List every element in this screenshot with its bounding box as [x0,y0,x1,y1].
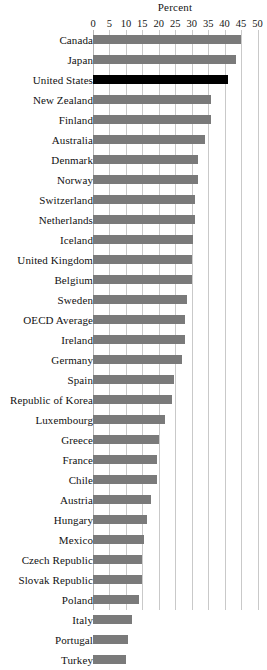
bar [93,395,172,404]
bar [93,255,192,264]
category-label: Italy [72,610,93,630]
chart-row: United States [0,70,267,90]
bar [93,195,195,204]
chart-row: Republic of Korea [0,390,267,410]
category-label: Turkey [61,650,93,670]
bar [93,555,142,564]
category-label: Sweden [58,290,93,310]
chart-row: Denmark [0,150,267,170]
category-label: Chile [69,470,93,490]
chart-row: Mexico [0,530,267,550]
bar [93,275,192,284]
bar [93,635,128,644]
category-label: Poland [62,590,93,610]
bar [93,375,174,384]
category-label: Spain [67,370,93,390]
category-label: Germany [51,350,93,370]
bar [93,315,185,324]
bar [93,75,228,84]
chart-row: Switzerland [0,190,267,210]
bar [93,115,211,124]
x-tick-label: 15 [137,17,148,30]
chart-row: Iceland [0,230,267,250]
x-tick-label: 10 [121,17,132,30]
chart-row: Finland [0,110,267,130]
bar [93,455,157,464]
category-label: United Kingdom [17,250,93,270]
chart-row: Netherlands [0,210,267,230]
bar [93,415,165,424]
bar [93,615,132,624]
category-label: Hungary [54,510,93,530]
chart-row: France [0,450,267,470]
category-label: Belgium [54,270,93,290]
bar [93,335,185,344]
category-label: Netherlands [39,210,93,230]
chart-row: Austria [0,490,267,510]
bar [93,175,198,184]
bar [93,435,159,444]
category-label: Iceland [60,230,93,250]
x-tick-label: 40 [219,17,230,30]
chart-row: Portugal [0,630,267,650]
chart-row: Germany [0,350,267,370]
chart-row: Slovak Republic [0,570,267,590]
chart-row: Italy [0,610,267,630]
bar [93,95,211,104]
category-label: Finland [59,110,93,130]
chart-row: Belgium [0,270,267,290]
category-label: Portugal [55,630,93,650]
chart-row: Australia [0,130,267,150]
chart-row: Czech Republic [0,550,267,570]
bar [93,215,195,224]
chart-row: Spain [0,370,267,390]
x-tick-label: 0 [90,17,95,30]
chart-rows: CanadaJapanUnited StatesNew ZealandFinla… [0,30,267,610]
bar [93,355,182,364]
category-label: New Zealand [33,90,93,110]
category-label: Republic of Korea [10,390,93,410]
category-label: Denmark [51,150,93,170]
category-label: Greece [61,430,93,450]
x-tick-label: 35 [203,17,214,30]
category-label: United States [33,70,93,90]
category-label: Luxembourg [35,410,93,430]
x-tick-label: 5 [107,17,112,30]
category-label: Norway [57,170,93,190]
bar [93,55,236,64]
chart-row: New Zealand [0,90,267,110]
bar [93,295,187,304]
category-label: OECD Average [23,310,93,330]
category-label: Canada [59,30,93,50]
chart-row: Poland [0,590,267,610]
x-tick-label: 45 [236,17,247,30]
x-tick-label: 25 [170,17,181,30]
x-tick-label: 30 [186,17,197,30]
category-label: Mexico [59,530,93,550]
chart-row: Sweden [0,290,267,310]
chart-title: Percent [93,1,257,14]
category-label: Czech Republic [22,550,93,570]
bar [93,495,151,504]
category-label: Japan [67,50,93,70]
category-label: Austria [60,490,93,510]
category-label: Ireland [61,330,93,350]
bar [93,155,198,164]
category-label: Australia [52,130,93,150]
chart-row: OECD Average [0,310,267,330]
chart-row: Ireland [0,330,267,350]
x-tick-label: 20 [154,17,165,30]
bar [93,235,193,244]
chart-row: Turkey [0,650,267,670]
bar [93,575,142,584]
chart-row: Greece [0,430,267,450]
chart-row: Chile [0,470,267,490]
chart-row: United Kingdom [0,250,267,270]
chart-row: Hungary [0,510,267,530]
x-tick-label: 50 [252,17,263,30]
category-label: Switzerland [39,190,93,210]
chart-row: Canada [0,30,267,50]
x-axis-tick-labels: 05101520253035404550 [0,17,267,30]
bar [93,35,241,44]
